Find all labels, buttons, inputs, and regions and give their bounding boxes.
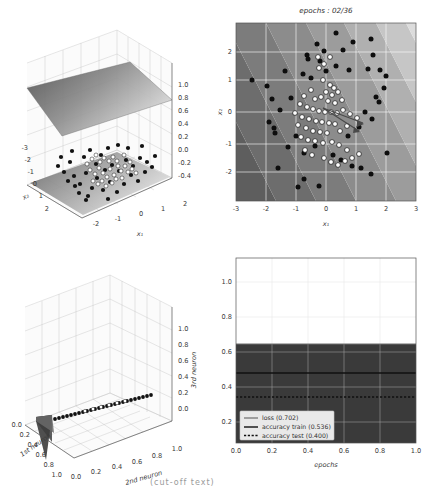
legend-box: loss (0.702) accuracy train (0.536) accu… xyxy=(240,411,334,440)
svg-text:1.0: 1.0 xyxy=(178,325,189,333)
svg-text:1: 1 xyxy=(228,76,232,84)
svg-text:1.0: 1.0 xyxy=(411,447,422,455)
svg-text:0.0: 0.0 xyxy=(231,447,242,455)
svg-text:-1: -1 xyxy=(225,140,232,148)
svg-text:0: 0 xyxy=(324,205,328,213)
legend-label-accuracy-test: accuracy test (0.400) xyxy=(262,432,328,440)
svg-text:0.6: 0.6 xyxy=(132,458,143,466)
xaxis-ticks-2d: -3 -2 -1 0 1 2 3 xyxy=(233,205,418,213)
plot-title-epochs: epochs : 02/36 xyxy=(299,6,353,15)
yaxis-label-3d: x₂ xyxy=(20,191,31,202)
zaxis-ticks-3d: 1.0 0.8 0.6 0.4 0.2 0.0 -0.2 -0.4 xyxy=(178,81,191,180)
svg-text:0.4: 0.4 xyxy=(303,447,314,455)
svg-text:0.2: 0.2 xyxy=(91,468,102,476)
svg-text:0.2: 0.2 xyxy=(267,447,278,455)
svg-text:0.4: 0.4 xyxy=(178,120,189,128)
xaxis-label-2d: x₁ xyxy=(322,220,330,228)
svg-text:0.8: 0.8 xyxy=(152,452,163,460)
xaxis-label-curve: epochs xyxy=(314,461,338,469)
svg-text:0.4: 0.4 xyxy=(222,383,233,391)
svg-text:0.4: 0.4 xyxy=(178,373,189,381)
svg-text:0.0: 0.0 xyxy=(71,473,82,481)
svg-text:0: 0 xyxy=(228,108,232,116)
legend-label-accuracy-train: accuracy train (0.536) xyxy=(262,423,331,431)
svg-text:0.0: 0.0 xyxy=(178,146,189,154)
svg-text:0: 0 xyxy=(33,180,37,188)
bottom-caption: (cut-off text) xyxy=(150,478,290,489)
svg-text:0.2: 0.2 xyxy=(178,133,189,141)
yaxis-ticks-curve: 1.0 0.8 0.6 0.4 0.2 xyxy=(222,278,233,426)
panel-neuron-space-3d: 1.0 0.8 0.6 0.4 0.2 0.0 3rd neuron 0.0 0… xyxy=(0,245,216,489)
svg-text:0.8: 0.8 xyxy=(178,341,189,349)
svg-text:-2: -2 xyxy=(24,156,31,164)
yaxis-label-2d: x₂ xyxy=(216,108,224,116)
svg-text:1: 1 xyxy=(161,205,165,213)
svg-text:1: 1 xyxy=(39,192,43,200)
svg-text:0.8: 0.8 xyxy=(375,447,386,455)
panel-surface-3d: 1.0 0.8 0.6 0.4 0.2 0.0 -0.2 -0.4 -3 -2 … xyxy=(0,0,216,245)
svg-text:0.6: 0.6 xyxy=(222,348,233,356)
svg-text:1.0: 1.0 xyxy=(222,278,233,286)
svg-text:0.0: 0.0 xyxy=(178,405,189,413)
svg-text:-0.2: -0.2 xyxy=(178,159,191,167)
xaxis-label-3d: x₁ xyxy=(136,230,144,238)
yaxis-ticks-2d: 2 1 0 -1 -2 xyxy=(225,48,232,176)
svg-text:0.2: 0.2 xyxy=(178,389,189,397)
panel-decision-boundary: epochs : 02/36 xyxy=(216,0,432,245)
svg-text:2: 2 xyxy=(384,205,388,213)
svg-text:-1: -1 xyxy=(115,215,122,223)
svg-text:0.8: 0.8 xyxy=(178,94,189,102)
svg-text:0.8: 0.8 xyxy=(44,461,55,469)
xaxis-ticks-curve: 0.0 0.2 0.4 0.6 0.8 1.0 xyxy=(231,447,422,455)
svg-text:0.6: 0.6 xyxy=(178,357,189,365)
panel-training-curves: loss (0.702) accuracy train (0.536) accu… xyxy=(216,245,432,489)
svg-text:0.2: 0.2 xyxy=(222,418,233,426)
svg-text:0.6: 0.6 xyxy=(36,451,47,459)
figure-canvas: 1.0 0.8 0.6 0.4 0.2 0.0 -0.2 -0.4 -3 -2 … xyxy=(0,0,432,489)
svg-text:1: 1 xyxy=(354,205,358,213)
svg-text:-2: -2 xyxy=(225,168,232,176)
svg-text:1.0: 1.0 xyxy=(178,81,189,89)
svg-text:0: 0 xyxy=(139,210,143,218)
zaxis-ticks-neuron: 1.0 0.8 0.6 0.4 0.2 0.0 xyxy=(178,325,189,413)
svg-text:-3: -3 xyxy=(21,144,28,152)
svg-text:0.2: 0.2 xyxy=(20,431,31,439)
svg-text:2: 2 xyxy=(183,200,187,208)
svg-text:-3: -3 xyxy=(233,205,240,213)
svg-text:-1: -1 xyxy=(293,205,300,213)
svg-text:-0.4: -0.4 xyxy=(178,172,191,180)
svg-text:1.0: 1.0 xyxy=(52,471,63,479)
svg-text:1.0: 1.0 xyxy=(172,445,183,453)
svg-text:0.6: 0.6 xyxy=(339,447,350,455)
legend-label-loss: loss (0.702) xyxy=(262,414,298,421)
svg-text:0.8: 0.8 xyxy=(222,313,233,321)
svg-text:0.6: 0.6 xyxy=(178,107,189,115)
svg-text:-1: -1 xyxy=(27,168,34,176)
zaxis-label-neuron: 3rd neuron xyxy=(190,352,198,389)
svg-text:2: 2 xyxy=(45,205,49,213)
svg-text:3: 3 xyxy=(414,205,418,213)
svg-text:0.4: 0.4 xyxy=(112,463,123,471)
svg-text:2: 2 xyxy=(228,48,232,56)
svg-text:0.0: 0.0 xyxy=(12,421,23,429)
svg-text:-2: -2 xyxy=(93,220,100,228)
svg-text:-2: -2 xyxy=(263,205,270,213)
